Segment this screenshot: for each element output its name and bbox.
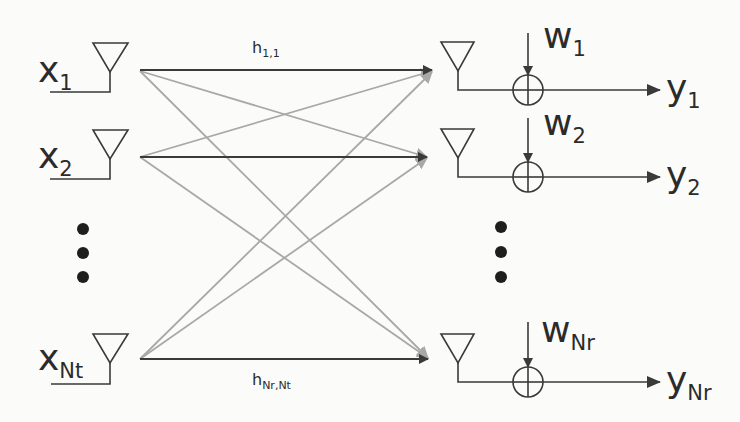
tx-label-nt: xNt [38,340,83,382]
rx-antenna-icon-2 [441,129,474,158]
tx-symbol: x [38,135,59,176]
mimo-diagram [0,0,740,422]
tx-symbol: x [38,337,59,378]
noise-label-1: w1 [543,18,586,60]
rx-antenna-icon-1 [441,42,474,71]
noise-subscript: 2 [572,124,585,148]
tx-subscript: 2 [59,157,72,181]
cross-channel-paths [140,71,432,359]
tx-symbol: x [38,49,59,90]
tx-label-1: x1 [38,52,73,94]
noise-symbol: w [541,309,570,350]
noise-label-nr: wNr [541,312,595,354]
noise-symbol: w [543,15,572,56]
output-label-2: y2 [666,157,701,199]
path-xNt-y2 [140,158,427,359]
tx-ellipsis-icon [77,223,89,283]
rx-ellipsis-icon [495,221,507,283]
channel-symbol: h [252,370,262,389]
channel-symbol: h [252,38,262,57]
output-subscript: 1 [687,89,700,113]
noise-subscript: 1 [572,37,585,61]
rx-antenna-icon-nr [441,334,474,363]
output-symbol: y [666,67,687,108]
channel-subscript: 1,1 [262,47,280,60]
output-subscript: 2 [687,176,700,200]
noise-label-2: w2 [543,105,586,147]
tx-subscript: Nt [59,359,83,383]
output-symbol: y [666,154,687,195]
tx-subscript: 1 [59,71,72,95]
output-symbol: y [666,359,687,400]
output-label-1: y1 [666,70,701,112]
channel-label-hNrNt: hNr,Nt [252,372,291,391]
noise-symbol: w [543,102,572,143]
output-label-nr: yNr [666,362,712,404]
tx-label-2: x2 [38,138,73,180]
noise-subscript: Nr [570,331,594,355]
channel-label-h11: h1,1 [252,40,280,59]
channel-subscript: Nr,Nt [262,379,291,392]
output-subscript: Nr [687,381,711,405]
